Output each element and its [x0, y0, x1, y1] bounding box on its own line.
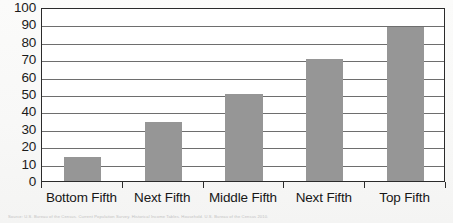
- bar: [225, 94, 262, 181]
- y-tick-label: 50: [0, 88, 36, 102]
- x-tick-mark: [283, 182, 284, 188]
- y-tick-label: 100: [0, 1, 36, 15]
- y-tick-label: 70: [0, 53, 36, 67]
- bar: [145, 122, 182, 181]
- plot-area: [41, 8, 445, 182]
- x-category-label: Next Fifth: [122, 190, 203, 206]
- bars-layer: [42, 9, 444, 181]
- source-note: Source: U.S. Bureau of the Census. Curre…: [8, 213, 448, 221]
- x-tick-mark: [41, 182, 42, 188]
- x-axis-category-labels: Bottom FifthNext FifthMiddle FifthNext F…: [41, 190, 445, 207]
- x-category-label: Middle Fifth: [203, 190, 284, 206]
- x-axis-tick-marks: [41, 182, 445, 188]
- x-tick-mark: [445, 182, 446, 188]
- x-category-label: Bottom Fifth: [41, 190, 122, 206]
- x-tick-mark: [203, 182, 204, 188]
- y-tick-label: 40: [0, 106, 36, 120]
- x-tick-mark: [364, 182, 365, 188]
- bar: [64, 157, 101, 181]
- y-tick-label: 10: [0, 158, 36, 172]
- x-category-label: Top Fifth: [364, 190, 445, 206]
- y-tick-label: 80: [0, 36, 36, 50]
- y-tick-label: 0: [0, 175, 36, 189]
- bar: [306, 59, 343, 181]
- y-tick-label: 20: [0, 140, 36, 154]
- y-tick-label: 90: [0, 19, 36, 33]
- x-category-label: Next Fifth: [283, 190, 364, 206]
- y-tick-label: 30: [0, 123, 36, 137]
- x-tick-mark: [122, 182, 123, 188]
- bar: [387, 27, 424, 181]
- y-axis-tick-labels: 0102030405060708090100: [0, 8, 36, 182]
- y-tick-label: 60: [0, 71, 36, 85]
- bar-chart-figure: 0102030405060708090100 Bottom FifthNext …: [0, 0, 453, 223]
